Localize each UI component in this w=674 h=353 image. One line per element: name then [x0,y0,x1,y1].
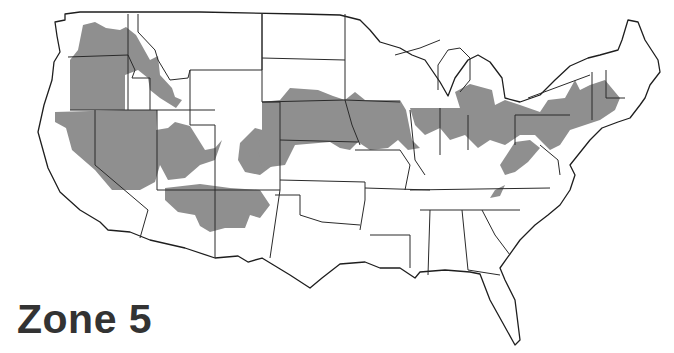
great-lakes [395,40,470,92]
zone-region-great-basin [55,110,222,190]
zone-region-northwest [70,22,182,110]
zone-region-southwest [165,184,270,232]
zone-5-regions [55,22,620,232]
map-title: Zone 5 [17,296,152,343]
zone-region-appalachia [500,140,540,175]
zone-region-nc-mountains [490,185,505,198]
